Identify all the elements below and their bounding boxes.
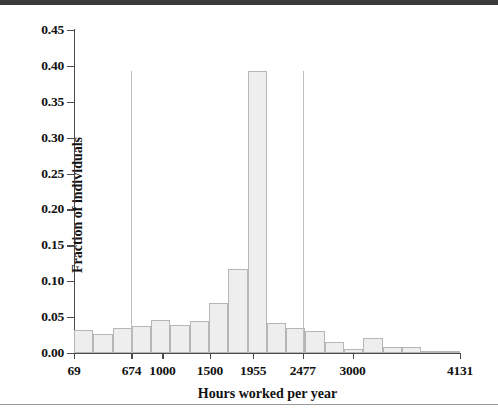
histogram-bar xyxy=(228,269,247,353)
x-axis-tick xyxy=(210,353,211,359)
bottom-divider-rule xyxy=(0,404,498,405)
y-axis-tick-label: 0.00 xyxy=(41,345,64,361)
x-axis-tick xyxy=(74,353,75,359)
reference-line-right xyxy=(303,71,304,353)
x-axis-title: Hours worked per year xyxy=(74,386,461,402)
x-axis-tick-label: 674 xyxy=(122,363,142,379)
y-axis-title: Fraction of individuals xyxy=(70,136,86,272)
y-axis-tick xyxy=(67,353,74,354)
histogram-bar xyxy=(132,326,151,353)
histogram-bar xyxy=(248,71,267,353)
histogram-bar xyxy=(383,347,402,353)
x-axis-tick xyxy=(353,353,354,359)
histogram-bar xyxy=(151,320,170,353)
y-axis-tick-label: 0.30 xyxy=(41,130,64,146)
x-axis-tick-label: 1955 xyxy=(240,363,266,379)
histogram-bar xyxy=(421,351,440,353)
x-axis-tick xyxy=(460,353,461,359)
histogram-bar xyxy=(93,334,112,353)
x-axis-tick-label: 1000 xyxy=(149,363,175,379)
histogram-bar xyxy=(209,303,228,353)
x-axis-tick-label: 2477 xyxy=(290,363,316,379)
histogram-bar xyxy=(74,330,93,353)
histogram-bar xyxy=(402,347,421,353)
y-axis-tick-label: 0.25 xyxy=(41,166,64,182)
y-axis-tick-label: 0.10 xyxy=(41,273,64,289)
reference-line-left xyxy=(131,71,132,353)
x-axis-tick xyxy=(253,353,254,359)
histogram-bar xyxy=(170,325,189,353)
histogram-bar xyxy=(305,331,324,353)
x-axis-tick-label: 69 xyxy=(67,363,80,379)
y-axis-tick-label: 0.20 xyxy=(41,201,64,217)
histogram-bar xyxy=(344,349,363,353)
y-axis-tick xyxy=(67,317,74,318)
histogram-bar xyxy=(325,342,344,353)
y-axis-tick-label: 0.15 xyxy=(41,237,64,253)
histogram-bar xyxy=(113,328,132,353)
y-axis-tick-label: 0.40 xyxy=(41,58,64,74)
x-axis-tick xyxy=(303,353,304,359)
y-axis-tick xyxy=(67,66,74,67)
histogram-bar xyxy=(190,321,209,353)
y-axis-tick-label: 0.45 xyxy=(41,22,64,38)
plot-area: 0.000.050.100.150.200.250.300.350.400.45… xyxy=(74,30,460,353)
y-axis-tick-label: 0.05 xyxy=(41,309,64,325)
y-axis-tick xyxy=(67,281,74,282)
y-axis-tick xyxy=(67,30,74,31)
x-axis-tick-label: 4131 xyxy=(447,363,473,379)
x-axis-tick xyxy=(162,353,163,359)
x-axis-tick-label: 3000 xyxy=(339,363,365,379)
y-axis-tick xyxy=(67,102,74,103)
histogram-figure: 0.000.050.100.150.200.250.300.350.400.45… xyxy=(0,5,498,404)
x-axis-tick xyxy=(131,353,132,359)
x-axis-tick-label: 1500 xyxy=(197,363,223,379)
y-axis-tick-label: 0.35 xyxy=(41,94,64,110)
histogram-bar xyxy=(441,351,460,353)
histogram-bar xyxy=(267,323,286,353)
histogram-bar xyxy=(363,338,382,353)
